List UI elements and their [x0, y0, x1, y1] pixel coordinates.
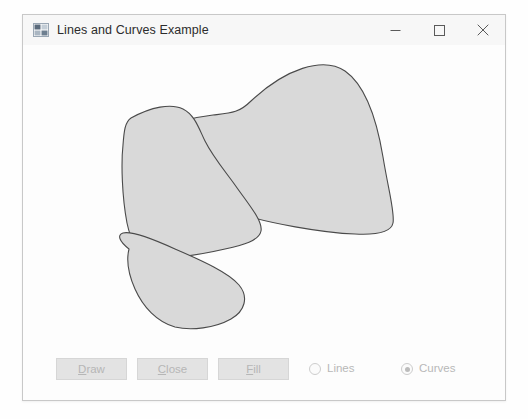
fill-button-rest: ill [253, 363, 261, 375]
close-button-mnemonic: C [158, 363, 166, 375]
radio-lines[interactable]: Lines [309, 359, 355, 379]
maximize-icon [434, 25, 445, 36]
window-title: Lines and Curves Example [57, 24, 209, 37]
winforms-app-icon [33, 23, 49, 37]
title-bar[interactable]: Lines and Curves Example [23, 15, 505, 45]
fill-button[interactable]: Fill [218, 358, 289, 380]
drawing-canvas[interactable] [23, 45, 505, 355]
controls-row: Draw Close Fill Lines Curves [23, 354, 505, 400]
draw-button[interactable]: Draw [56, 358, 127, 380]
radio-lines-indicator[interactable] [309, 363, 321, 375]
maximize-button[interactable] [417, 15, 461, 45]
close-icon [477, 24, 489, 36]
radio-lines-label: Lines [327, 363, 355, 375]
minimize-button[interactable] [373, 15, 417, 45]
radio-curves-label: Curves [419, 363, 455, 375]
close-button[interactable] [461, 15, 505, 45]
window-controls [373, 15, 505, 45]
draw-button-rest: raw [86, 363, 105, 375]
screenshot-root: Lines and Curves Example [0, 0, 528, 419]
client-area: Draw Close Fill Lines Curves [23, 45, 505, 400]
radio-curves[interactable]: Curves [401, 359, 455, 379]
close-button-rest: lose [166, 363, 187, 375]
curve-shape [120, 65, 394, 329]
minimize-icon [390, 25, 401, 36]
radio-curves-indicator[interactable] [401, 363, 413, 375]
application-window: Lines and Curves Example [22, 14, 506, 401]
close-shape-button[interactable]: Close [137, 358, 208, 380]
